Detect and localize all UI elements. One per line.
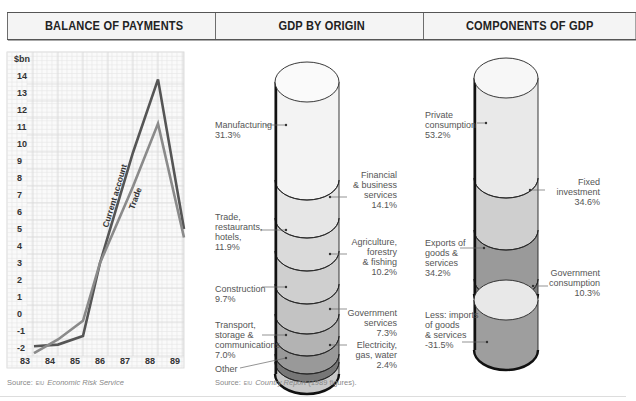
bop-source: Source:EIUEconomic Risk Service [7, 378, 124, 387]
y-tick: 8 [17, 173, 22, 183]
label-construction: Construction9.7% [215, 284, 266, 304]
origin-source: Source:EIUCountry Report (1989 figures). [215, 378, 357, 387]
label-financial: Financial& businessservices14.1% [335, 170, 397, 210]
y-tick: 9 [17, 156, 22, 166]
label-fixed-investment: Fixedinvestment34.6% [545, 177, 600, 207]
label-electricity: Electricity,gas, water2.4% [335, 340, 397, 370]
label-government-services: Governmentservices7.3% [335, 308, 397, 338]
label-imports: Less: importsof goods& services-31.5% [425, 310, 479, 350]
bottom-rule [0, 396, 626, 397]
x-tick: 88 [145, 356, 155, 366]
y-tick: -1 [17, 326, 25, 336]
y-tick: 4 [17, 241, 22, 251]
label-government-consumption: Governmentconsumption10.3% [540, 268, 600, 298]
label-transport: Transport,storage &communications7.0% [215, 320, 280, 360]
y-tick: 1 [17, 292, 22, 302]
y-tick: 0 [17, 309, 22, 319]
y-tick: 13 [17, 88, 27, 98]
y-tick: 3 [17, 258, 22, 268]
y-tick: 5 [17, 224, 22, 234]
y-tick: 2 [17, 275, 22, 285]
y-tick: 7 [17, 190, 22, 200]
x-tick: 87 [120, 356, 130, 366]
label-other: Other [215, 364, 238, 374]
y-tick: 14 [17, 71, 27, 81]
label-private-consumption: Privateconsumption53.2% [425, 110, 476, 140]
gdp-origin-title: GDP BY ORIGIN [215, 12, 428, 40]
x-tick: 89 [170, 356, 180, 366]
x-tick: 84 [45, 356, 55, 366]
y-tick: 10 [17, 139, 27, 149]
label-agriculture: Agriculture,forestry& fishing10.2% [335, 237, 397, 277]
x-tick: 85 [70, 356, 80, 366]
y-tick: 11 [17, 122, 27, 132]
x-tick: 83 [20, 356, 30, 366]
y-tick: -2 [17, 343, 25, 353]
balance-of-payments-chart: $bn14131211109876543210-1-28384858687888… [0, 0, 210, 380]
y-tick: 6 [17, 207, 22, 217]
label-manufacturing: Manufacturing31.3% [215, 120, 272, 140]
y-tick: 12 [17, 105, 27, 115]
label-exports: Exports ofgoods &services34.2% [425, 238, 466, 278]
y-axis-unit: $bn [14, 54, 30, 64]
x-tick: 86 [95, 356, 105, 366]
label-trade: Trade,restaurants,hotels,11.9% [215, 212, 263, 252]
gdp-components-title: COMPONENTS OF GDP [423, 12, 636, 40]
